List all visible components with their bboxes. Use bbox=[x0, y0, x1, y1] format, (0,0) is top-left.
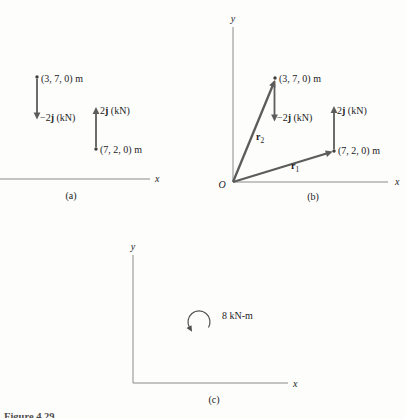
a-point-3-7-0-dot bbox=[35, 75, 38, 78]
b-r1-vector bbox=[233, 154, 327, 183]
c-moment-label: 8 kN-m bbox=[222, 310, 253, 321]
b-force-up-label: 2j (kN) bbox=[337, 105, 367, 117]
c-x-axis-label: x bbox=[292, 378, 298, 389]
b-point-7-2-0-label: (7, 2, 0) m bbox=[338, 145, 380, 157]
b-point-3-7-0-label: (3, 7, 0) m bbox=[279, 73, 321, 85]
panel-c: y x 8 kN-m (c) bbox=[130, 241, 298, 406]
couple-moment-diagram: x (3, 7, 0) m −2j (kN) 2j (kN) (7, 2, 0)… bbox=[0, 0, 406, 419]
c-y-axis-label: y bbox=[130, 241, 136, 252]
b-origin-label: O bbox=[218, 179, 225, 190]
a-caption: (a) bbox=[65, 190, 76, 202]
a-force-up-label: 2j (kN) bbox=[100, 105, 130, 117]
figure-caption-partial: Figure 4.29 bbox=[4, 409, 104, 418]
b-r2-vector bbox=[233, 86, 273, 182]
panel-b: y x O (3, 7, 0) m −2j (kN) (7, 2, 0) m 2… bbox=[218, 13, 400, 203]
c-caption: (c) bbox=[208, 394, 219, 406]
b-r2-label: r2 bbox=[256, 131, 264, 145]
a-point-7-2-0-dot bbox=[94, 147, 97, 150]
b-y-axis-label: y bbox=[230, 13, 236, 24]
b-x-axis-label: x bbox=[394, 176, 400, 187]
a-point-3-7-0-label: (3, 7, 0) m bbox=[41, 73, 83, 85]
panel-a: x (3, 7, 0) m −2j (kN) 2j (kN) (7, 2, 0)… bbox=[0, 73, 160, 202]
b-point-3-7-0-dot bbox=[273, 76, 276, 79]
b-caption: (b) bbox=[307, 191, 319, 203]
b-force-down-label: −2j (kN) bbox=[277, 112, 312, 124]
a-x-axis-label: x bbox=[154, 173, 160, 184]
b-point-7-2-0-dot bbox=[332, 149, 335, 152]
a-force-down-label: −2j (kN) bbox=[40, 112, 75, 124]
figure-page: x (3, 7, 0) m −2j (kN) 2j (kN) (7, 2, 0)… bbox=[0, 0, 406, 419]
c-counterclockwise-moment-arrow bbox=[188, 311, 210, 328]
a-point-7-2-0-label: (7, 2, 0) m bbox=[100, 144, 142, 156]
